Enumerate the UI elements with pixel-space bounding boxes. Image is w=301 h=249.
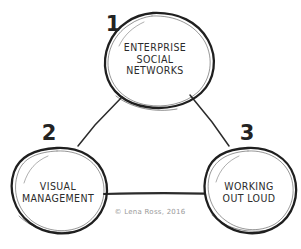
node-number-3: 3 [240,123,255,144]
node-circle-3 [205,148,297,233]
diagram-canvas: 1 2 3 ENTERPRISE SOCIAL NETWORKS VISUAL … [0,0,301,249]
node-circle-1 [105,13,214,110]
node-number-1: 1 [106,14,121,35]
connector-1-to-3 [190,95,229,146]
connector-1-to-2 [78,97,122,146]
copyright-caption: © Lena Ross, 2016 [115,208,186,216]
node-circle-2 [12,148,107,233]
node-number-2: 2 [42,123,57,144]
connector-2-to-3 [104,193,204,194]
